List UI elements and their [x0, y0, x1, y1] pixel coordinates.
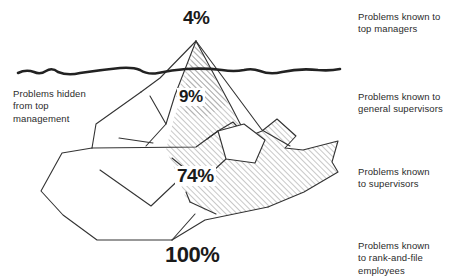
percent-label-top-managers: 4% [181, 8, 211, 28]
annotation-hidden-from-top-management: Problems hidden from top management [13, 88, 86, 125]
legend-label-rank-and-file: Problems known to rank-and-file employee… [358, 240, 430, 277]
waterline [18, 68, 340, 75]
legend-label-general-supervisors: Problems known to general supervisors [358, 91, 443, 116]
percent-label-supervisors: 74% [175, 166, 216, 186]
legend-label-top-managers: Problems known to top managers [358, 11, 441, 36]
hatched-shaded-mass [166, 41, 338, 216]
inner-small-facet [119, 138, 153, 143]
percent-label-rank-and-file: 100% [163, 243, 221, 266]
inner-pentagon-facet [218, 124, 265, 163]
inner-notch-upper [146, 96, 166, 146]
bottom-notch [172, 214, 195, 240]
legend-label-supervisors: Problems known to supervisors [358, 166, 430, 191]
percent-label-general-supervisors: 9% [177, 88, 205, 106]
left-lower-outline [41, 148, 172, 240]
iceberg-illustration [0, 0, 463, 280]
iceberg-diagram: 4% 9% 74% 100% Problems hidden from top … [0, 0, 463, 280]
